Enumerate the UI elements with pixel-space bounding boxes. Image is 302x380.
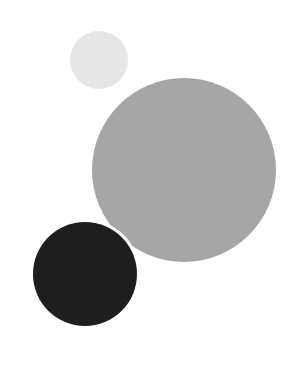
canvas xyxy=(0,0,302,380)
small-light-circle xyxy=(70,31,128,89)
dark-circle xyxy=(33,222,137,326)
